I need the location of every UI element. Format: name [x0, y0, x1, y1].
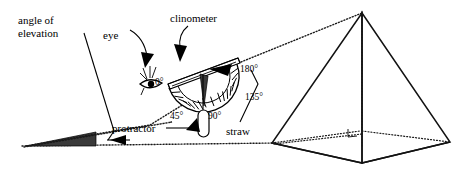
pyramid-base-edge-front-left — [272, 143, 362, 163]
eye-leader-line — [130, 30, 147, 56]
clinometer-leader-group — [174, 26, 188, 62]
pyramid-base-diagonal — [274, 134, 362, 144]
angle-of-elevation-arrow-head — [110, 135, 126, 145]
pyramid-base-edge-hidden-right — [362, 131, 450, 142]
angle-of-elevation-label-line1: angle of — [18, 14, 54, 26]
degree-label-0: 0° — [155, 77, 164, 87]
angle-of-elevation-leader-line — [84, 33, 114, 131]
eyelash-1 — [143, 68, 147, 79]
eyelash-5 — [141, 88, 144, 95]
clinometer-leader-line — [180, 26, 188, 48]
pyramid-base-edge-hidden-left — [272, 131, 360, 143]
angle-of-elevation-label-line2: elevation — [18, 27, 59, 39]
eye-pupil — [148, 81, 154, 87]
eye-leader-group — [130, 30, 154, 68]
degree-label-90: 90° — [208, 111, 222, 121]
clinometer-label: clinometer — [170, 12, 217, 24]
pyramid-base-edge-front-right — [362, 142, 450, 163]
line-of-sight-ground-to-eye — [26, 104, 184, 146]
clinometer-leader-arrow-head — [174, 44, 187, 62]
protractor-label: protractor — [112, 122, 156, 134]
diagram-canvas: angle of elevation eye clinometer protra… — [0, 0, 455, 175]
pyramid-left-face — [272, 13, 362, 163]
clinometer-elevation-diagram: angle of elevation eye clinometer protra… — [0, 0, 455, 175]
eye-label: eye — [103, 29, 118, 41]
degree-label-180: 180° — [240, 64, 258, 74]
degree-label-135: 135° — [245, 92, 263, 102]
line-of-sight-clinometer-to-apex — [241, 13, 362, 62]
eye-leader-arrow-head — [141, 52, 154, 68]
degree-label-45: 45° — [170, 111, 184, 121]
straw-label: straw — [226, 125, 250, 137]
pyramid-group — [272, 13, 450, 163]
